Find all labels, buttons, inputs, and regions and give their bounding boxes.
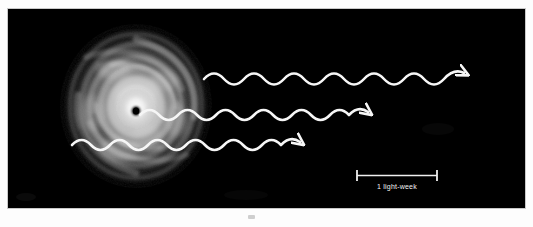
black-hole-core [133, 107, 139, 114]
figure-root: 1 light-week [0, 0, 533, 227]
photographic-plate-frame: 1 light-week [7, 8, 526, 209]
scene-canvas: 1 light-week [8, 9, 525, 208]
paper-smudge [248, 215, 255, 219]
scale-bar-label: 1 light-week [377, 183, 417, 191]
